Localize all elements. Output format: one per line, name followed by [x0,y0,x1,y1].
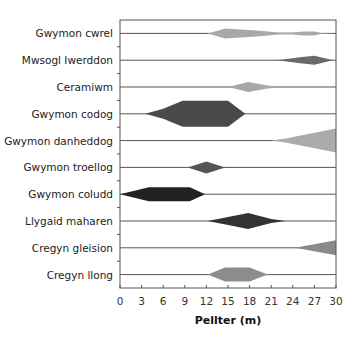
x-tick-label: 0 [117,295,124,307]
kite-shape [145,101,245,127]
x-axis-label: Pellter (m) [195,314,262,327]
kite-shape [271,129,336,153]
row-label: Cregyn llong [47,269,113,281]
kite-shape [228,82,286,92]
row-label: Llygaid maharen [25,215,113,227]
row-label: Ceramiwm [56,81,113,93]
row-label: Cregyn gleision [32,242,113,254]
x-tick-label: 15 [221,295,234,307]
kite-shape [120,187,205,201]
kite-chart: Gwymon cwrelMwsogl IwerddonCeramiwmGwymo… [0,0,364,338]
row-label: Gwymon codog [31,108,113,120]
x-tick-label: 3 [138,295,145,307]
x-tick-label: 21 [265,295,278,307]
kite-shape [208,268,268,282]
x-tick-label: 27 [308,295,321,307]
x-tick-label: 6 [160,295,167,307]
row-label: Gwymon cwrel [36,27,113,39]
x-tick-label: 9 [181,295,188,307]
kite-shape [188,161,225,173]
x-tick-label: 30 [329,295,342,307]
kite-shape [295,240,336,255]
x-tick-label: 24 [286,295,300,307]
kite-shape [208,28,336,38]
kite-shape [277,56,333,65]
kite-shape [208,213,286,229]
row-label: Gwymon troellog [23,161,113,173]
row-label: Gwymon coludd [28,188,113,200]
row-label: Mwsogl Iwerddon [22,54,113,66]
x-tick-label: 18 [243,295,256,307]
row-label: Gwymon danheddog [4,135,113,147]
x-tick-label: 12 [200,295,213,307]
